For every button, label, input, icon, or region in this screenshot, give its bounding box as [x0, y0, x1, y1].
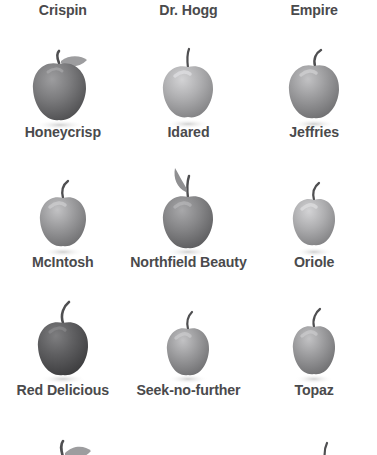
- label-row-3: McIntosh Northfield Beauty Oriole: [0, 252, 377, 272]
- apple-stem: [62, 302, 69, 323]
- apple-stem: [314, 183, 320, 200]
- apple-leaf: [175, 168, 188, 192]
- apple-topaz: [285, 297, 343, 385]
- variety-label: Jeffries: [251, 122, 377, 142]
- label-row-2: Honeycrisp Idared Jeffries: [0, 122, 377, 142]
- apple-illustration: [29, 297, 97, 385]
- apple-seek-no-further: [158, 297, 218, 385]
- apple-illustration: [32, 176, 94, 258]
- label-row-4: Red Delicious Seek-no-further Topaz: [0, 380, 377, 400]
- apple-cell: [0, 168, 126, 258]
- variety-label: McIntosh: [0, 252, 126, 272]
- apple-row-4-partial: [0, 435, 377, 455]
- apple-cell: [126, 295, 252, 385]
- variety-label: Empire: [251, 0, 377, 20]
- apple-row-1: [0, 40, 377, 130]
- variety-label: Idared: [126, 122, 252, 142]
- apple-illustration: [285, 176, 343, 258]
- variety-label: Oriole: [251, 252, 377, 272]
- variety-label: Crispin: [0, 0, 126, 20]
- apple-illustration-partial: [296, 435, 354, 455]
- apple-row-3: [0, 295, 377, 385]
- apple-oriole: [285, 176, 343, 258]
- apple-red-delicious: [29, 297, 97, 385]
- apple-cell: [126, 40, 252, 130]
- apple-stem: [314, 309, 321, 327]
- apple-cell: [0, 435, 126, 455]
- variety-label: Honeycrisp: [0, 122, 126, 142]
- apple-illustration: [156, 46, 220, 130]
- variety-label: Dr. Hogg: [126, 0, 252, 20]
- apple-cell: [251, 435, 377, 455]
- apple-illustration: [282, 46, 346, 130]
- apple-illustration: [26, 46, 100, 130]
- apple-variety-plate: Crispin Dr. Hogg Empire: [0, 0, 377, 455]
- label-row-1: Crispin Dr. Hogg Empire: [0, 0, 377, 20]
- apple-illustration: [285, 297, 343, 385]
- apple-cell: [126, 435, 252, 455]
- apple-idared: [156, 46, 220, 130]
- apple-row-2: [0, 168, 377, 258]
- apple-mcintosh: [32, 176, 94, 258]
- apple-cell: [251, 168, 377, 258]
- apple-honeycrisp: [26, 46, 100, 130]
- variety-label: Northfield Beauty: [126, 252, 252, 272]
- apple-stem: [62, 181, 68, 198]
- apple-stem: [61, 441, 63, 455]
- apple-illustration: [158, 297, 218, 385]
- apple-illustration: [153, 166, 223, 258]
- apple-stem: [188, 49, 190, 68]
- apple-body: [33, 63, 86, 120]
- apple-cell: [251, 295, 377, 385]
- variety-label: Seek-no-further: [126, 380, 252, 400]
- apple-northfield-beauty: [153, 166, 223, 258]
- apple-cell: [0, 295, 126, 385]
- apple-stem: [325, 443, 327, 455]
- apple-illustration-partial: [30, 435, 104, 455]
- variety-label: Topaz: [251, 380, 377, 400]
- apple-cell: [251, 40, 377, 130]
- apple-jeffries: [282, 46, 346, 130]
- variety-label: Red Delicious: [0, 380, 126, 400]
- apple-cell: [126, 168, 252, 258]
- apple-stem: [188, 312, 193, 329]
- apple-cell: [0, 40, 126, 130]
- apple-stem: [57, 51, 59, 63]
- apple-stem: [188, 176, 190, 198]
- apple-stem: [315, 50, 322, 66]
- apple-leaf: [65, 447, 91, 455]
